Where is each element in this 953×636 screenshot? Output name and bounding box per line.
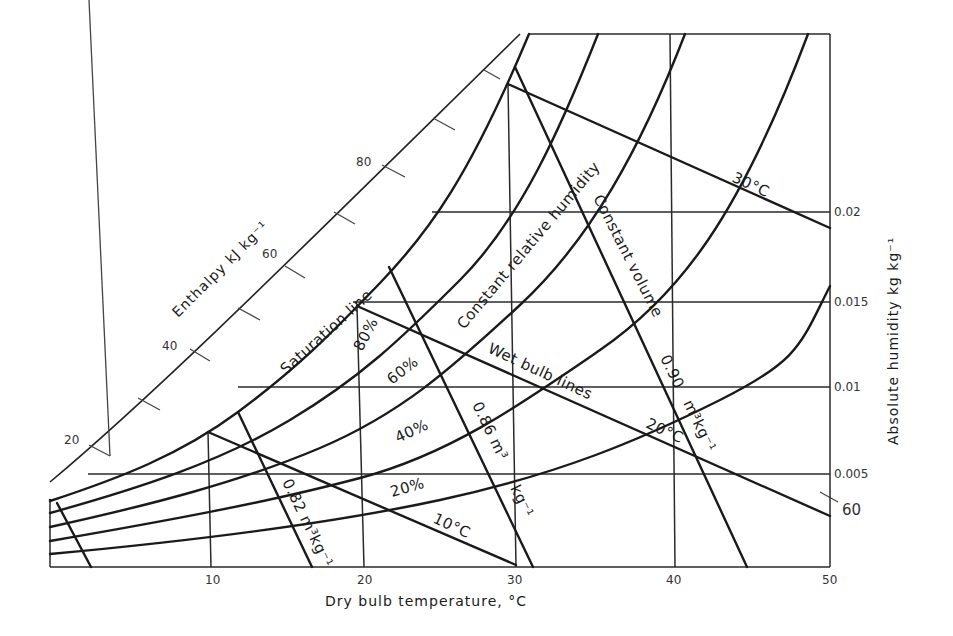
x-tick-labels: 10 20 30 40 50 Dry bulb temperature, °C [205,573,837,609]
enthalpy-scale-line [50,34,520,482]
rh40-curve [50,34,808,541]
enthalpy-tick-60-right: 60 [842,501,861,519]
humidity-gridlines [88,212,830,474]
y-tick-0005: 0.005 [834,467,868,481]
y-tick-0015: 0.015 [834,295,868,309]
v090a-label: 0.90 [656,352,688,392]
rh80-label: 80% [350,315,382,354]
rh60-label: 60% [383,353,422,389]
enthalpy-tick-40: 40 [162,339,177,353]
wet-bulb-line-10 [208,432,516,565]
v090b-label: m³kg⁻¹ [679,397,720,455]
rh40-label: 40% [392,416,431,447]
enthalpy-axis-title: Enthalpy kJ kg⁻¹ [169,218,271,320]
enthalpy-tick-60: 60 [262,247,277,261]
temperature-gridlines [208,34,675,567]
y-tick-labels: 0.005 0.01 0.015 0.02 Absolute humidity … [834,205,901,481]
wet-bulb-line-20 [357,306,830,516]
y-tick-001: 0.01 [834,380,861,394]
v086b-label: kg⁻¹ [506,482,537,521]
x-tick-50: 50 [822,573,837,587]
enthalpy-tick-20: 20 [64,433,79,447]
x-tick-30: 30 [507,573,522,587]
const-volume-label: Constant volume [589,192,666,321]
x-tick-20: 20 [357,573,372,587]
x-tick-40: 40 [666,573,681,587]
psychrometric-chart: Saturation line Constant relative humidi… [0,0,953,636]
volume-line-090 [515,67,747,567]
enthalpy-tick-80: 80 [356,155,371,169]
rh20-label: 20% [388,474,426,501]
y-tick-002: 0.02 [834,205,861,219]
enthalpy-scale [50,0,838,502]
y-axis-title: Absolute humidity kg kg⁻¹ [885,237,901,445]
x-tick-10: 10 [205,573,220,587]
saturation-curve [50,34,529,501]
annotations: Saturation line Constant relative humidi… [169,158,773,570]
enthalpy-tick [89,0,110,456]
rh60-curve [50,34,685,527]
x-axis-title: Dry bulb temperature, °C [325,593,527,609]
enthalpy-tick-labels: 20 40 60 80 60 [64,155,861,519]
